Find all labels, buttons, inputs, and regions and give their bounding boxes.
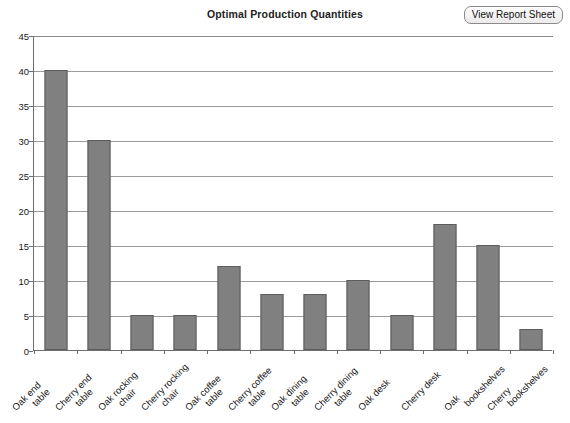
- y-axis: 454035302520151050: [0, 36, 29, 351]
- y-tick-label: 0: [3, 346, 29, 357]
- bar[interactable]: [44, 70, 67, 350]
- y-tick-label: 40: [3, 66, 29, 77]
- bar[interactable]: [217, 266, 240, 350]
- y-tick-label: 35: [3, 101, 29, 112]
- bar-slot: [467, 35, 510, 350]
- y-tick-label: 5: [3, 311, 29, 322]
- bar-slot: [164, 35, 207, 350]
- y-tick-label: 15: [3, 241, 29, 252]
- bar-slot: [77, 35, 120, 350]
- bar[interactable]: [520, 329, 543, 350]
- bar-slot: [250, 35, 293, 350]
- view-report-sheet-button[interactable]: View Report Sheet: [464, 6, 563, 24]
- bar[interactable]: [390, 315, 413, 350]
- bar-slot: [380, 35, 423, 350]
- y-tick-label: 25: [3, 171, 29, 182]
- bar-slot: [294, 35, 337, 350]
- bars-layer: [34, 35, 553, 350]
- y-tick-label: 20: [3, 206, 29, 217]
- bar-slot: [510, 35, 553, 350]
- bar-slot: [207, 35, 250, 350]
- bar[interactable]: [174, 315, 197, 350]
- bar-slot: [34, 35, 77, 350]
- bar-slot: [337, 35, 380, 350]
- bar[interactable]: [433, 224, 456, 350]
- bar-slot: [121, 35, 164, 350]
- bar-slot: [423, 35, 466, 350]
- bar[interactable]: [260, 294, 283, 350]
- bar[interactable]: [131, 315, 154, 350]
- y-tick-label: 10: [3, 276, 29, 287]
- bar[interactable]: [477, 245, 500, 350]
- plot-area: [33, 36, 552, 351]
- bar[interactable]: [87, 140, 110, 350]
- bar[interactable]: [347, 280, 370, 350]
- y-tick-label: 30: [3, 136, 29, 147]
- y-tick-label: 45: [3, 31, 29, 42]
- bar[interactable]: [304, 294, 327, 350]
- x-axis: Oak endtableCherry endtableOak rockingch…: [33, 352, 552, 423]
